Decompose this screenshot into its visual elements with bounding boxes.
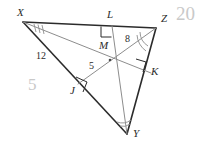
scribble-annotation-left: 5 xyxy=(28,76,37,93)
scribble-annotation-top-right: 20 xyxy=(176,4,195,23)
segment-xz xyxy=(23,22,156,28)
vertex-label-Z: Z xyxy=(161,13,167,24)
cevian-group xyxy=(23,22,156,134)
cevian-x-to-k xyxy=(23,22,151,73)
geometry-diagram: X Z Y L M J K 12 5 8 20 5 xyxy=(0,0,207,147)
point-label-J: J xyxy=(70,85,75,96)
point-label-K: K xyxy=(151,66,158,77)
point-label-L: L xyxy=(107,9,113,20)
point-label-M: M xyxy=(99,40,108,51)
measure-label-12: 12 xyxy=(36,51,46,61)
vertex-label-Y: Y xyxy=(133,128,139,139)
right-angle-at-L-icon xyxy=(101,27,112,38)
triangle-xyz xyxy=(23,22,156,134)
measure-label-8: 8 xyxy=(125,34,130,44)
cevian-z-to-j xyxy=(78,28,156,84)
segment-xy xyxy=(23,22,127,134)
angle-X-ticks xyxy=(34,24,44,34)
measure-label-5: 5 xyxy=(89,61,94,71)
vertex-label-X: X xyxy=(17,7,24,18)
point-M-dot xyxy=(109,59,112,62)
segment-zy xyxy=(127,28,156,134)
